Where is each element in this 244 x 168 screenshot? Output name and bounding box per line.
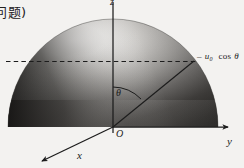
projection-leader: –: [197, 51, 202, 61]
x-axis-label: x: [77, 150, 82, 161]
shaded-hemisphere: [0, 14, 244, 128]
projection-angle: θ: [234, 51, 239, 61]
caption-fragment: 问题): [0, 6, 27, 19]
projection-cos: cos: [219, 51, 232, 61]
diagram-svg: [0, 0, 244, 168]
y-axis-label: y: [227, 136, 232, 147]
origin-label: O: [116, 129, 123, 139]
figure-canvas: 问题) z y x O θ –u0cosθ: [0, 0, 244, 168]
projection-value-label: –u0cosθ: [197, 52, 239, 62]
projection-subscript: 0: [209, 56, 212, 62]
z-axis-label: z: [110, 0, 114, 7]
theta-angle-label: θ: [116, 88, 121, 98]
